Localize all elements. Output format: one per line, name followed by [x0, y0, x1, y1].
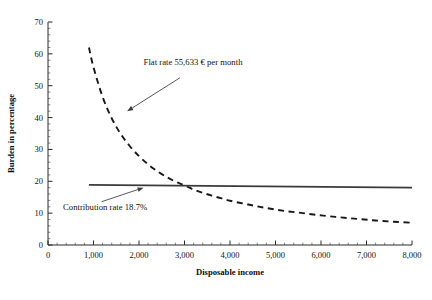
y-tick-label: 20	[35, 176, 44, 186]
burden-vs-income-chart: 010203040506070 01,0002,0003,0004,0005,0…	[0, 0, 432, 300]
annotation-label: Flat rate 55,633 € per month	[144, 57, 244, 67]
x-tick-label: 2,000	[129, 250, 148, 260]
chart-figure: 010203040506070 01,0002,0003,0004,0005,0…	[0, 0, 432, 300]
x-tick-label: 8,000	[402, 250, 421, 260]
annotation-label: Contribution rate 18.7%	[63, 202, 147, 212]
x-axis-tick-labels: 01,0002,0003,0004,0005,0006,0007,0008,00…	[46, 250, 422, 260]
x-tick-label: 0	[46, 250, 50, 260]
x-tick-label: 6,000	[311, 250, 330, 260]
y-tick-label: 0	[39, 240, 43, 250]
x-tick-label: 5,000	[266, 250, 285, 260]
y-tick-label: 70	[35, 17, 44, 27]
y-tick-label: 60	[35, 49, 44, 59]
x-tick-label: 3,000	[175, 250, 194, 260]
y-tick-label: 30	[35, 144, 44, 154]
y-tick-label: 10	[35, 208, 44, 218]
x-tick-label: 7,000	[357, 250, 376, 260]
y-axis-title: Burden in percentage	[6, 94, 16, 173]
x-tick-label: 1,000	[84, 250, 103, 260]
x-axis-title: Disposable income	[196, 267, 264, 277]
x-tick-label: 4,000	[220, 250, 239, 260]
y-tick-label: 50	[35, 81, 44, 91]
y-tick-label: 40	[35, 113, 44, 123]
